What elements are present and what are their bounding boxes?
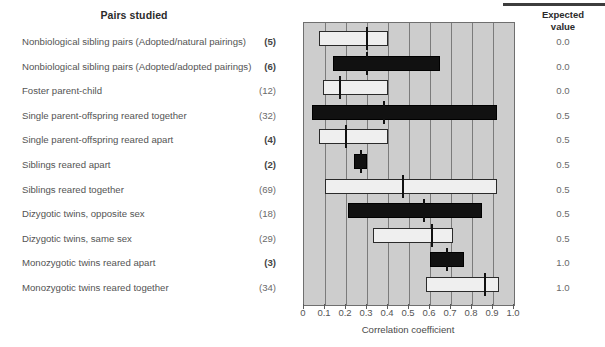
expected-value-cell: 0.5 bbox=[528, 128, 598, 153]
x-axis-tick-labels: 00.10.20.30.40.50.60.70.80.91.0 bbox=[303, 307, 513, 321]
pair-label-text: Single parent-offspring reared apart bbox=[22, 128, 173, 153]
range-bar bbox=[319, 31, 388, 46]
study-count: (34) bbox=[259, 276, 276, 301]
expected-value-cell: 0.0 bbox=[528, 30, 598, 55]
pair-label-row: Dizygotic twins, same sex(29) bbox=[0, 227, 290, 252]
pair-label-text: Dizygotic twins, opposite sex bbox=[22, 202, 145, 227]
pair-label-text: Siblings reared apart bbox=[22, 153, 111, 178]
top-divider-rule bbox=[503, 3, 605, 6]
study-count: (29) bbox=[259, 227, 276, 252]
median-marker bbox=[383, 101, 385, 124]
range-bar bbox=[323, 80, 388, 95]
study-count: (69) bbox=[259, 178, 276, 203]
expected-value-cell: 0.5 bbox=[528, 104, 598, 129]
median-marker bbox=[446, 248, 448, 271]
pairs-studied-header: Pairs studied bbox=[0, 9, 268, 21]
axis-tick-label: 1.0 bbox=[498, 307, 528, 318]
expected-value-cell: 0.5 bbox=[528, 178, 598, 203]
range-bar bbox=[373, 228, 453, 243]
pair-label-row: Siblings reared apart(2) bbox=[0, 153, 290, 178]
pair-label-text: Foster parent-child bbox=[22, 79, 102, 104]
median-marker bbox=[345, 125, 347, 148]
pair-label-text: Nonbiological sibling pairs (Adopted/nat… bbox=[22, 30, 246, 55]
pair-label-row: Nonbiological sibling pairs (Adopted/ado… bbox=[0, 55, 290, 80]
range-bar bbox=[333, 56, 440, 71]
range-bar bbox=[319, 129, 388, 144]
correlation-chart-figure: Pairs studied Expected value Nonbiologic… bbox=[0, 0, 605, 347]
study-count: (18) bbox=[259, 202, 276, 227]
pair-label-row: Dizygotic twins, opposite sex(18) bbox=[0, 202, 290, 227]
range-bar bbox=[325, 179, 497, 194]
pair-label-text: Nonbiological sibling pairs (Adopted/ado… bbox=[22, 55, 251, 80]
pair-label-row: Nonbiological sibling pairs (Adopted/nat… bbox=[0, 30, 290, 55]
expected-value-column: 0.00.00.00.50.50.50.50.50.51.01.0 bbox=[528, 30, 598, 301]
pair-label-row: Single parent-offspring reared together(… bbox=[0, 104, 290, 129]
range-bar bbox=[426, 277, 500, 292]
expected-value-cell: 0.5 bbox=[528, 153, 598, 178]
pair-label-text: Monozygotic twins reared apart bbox=[22, 251, 155, 276]
pair-label-text: Dizygotic twins, same sex bbox=[22, 227, 132, 252]
study-count: (6) bbox=[264, 55, 276, 80]
median-marker bbox=[339, 76, 341, 99]
range-bar bbox=[348, 203, 482, 218]
pair-label-text: Monozygotic twins reared together bbox=[22, 276, 169, 301]
median-marker bbox=[423, 199, 425, 222]
study-count: (32) bbox=[259, 104, 276, 129]
pair-label-row: Monozygotic twins reared apart(3) bbox=[0, 251, 290, 276]
median-marker bbox=[366, 27, 368, 50]
median-marker bbox=[484, 273, 486, 296]
plot-area bbox=[303, 22, 515, 306]
expected-value-cell: 0.5 bbox=[528, 227, 598, 252]
study-count: (5) bbox=[264, 30, 276, 55]
pair-label-text: Siblings reared together bbox=[22, 178, 124, 203]
pair-label-column: Nonbiological sibling pairs (Adopted/nat… bbox=[0, 30, 290, 301]
median-marker bbox=[431, 224, 433, 247]
expected-value-cell: 0.5 bbox=[528, 202, 598, 227]
median-marker bbox=[360, 150, 362, 173]
study-count: (2) bbox=[264, 153, 276, 178]
median-marker bbox=[366, 52, 368, 75]
study-count: (12) bbox=[259, 79, 276, 104]
expected-value-cell: 1.0 bbox=[528, 251, 598, 276]
study-count: (4) bbox=[264, 128, 276, 153]
expected-value-header-line1: Expected bbox=[528, 9, 598, 21]
pair-label-row: Monozygotic twins reared together(34) bbox=[0, 276, 290, 301]
x-axis-title: Correlation coefficient bbox=[303, 324, 513, 335]
range-bar bbox=[312, 105, 497, 120]
expected-value-cell: 0.0 bbox=[528, 55, 598, 80]
pair-label-text: Single parent-offspring reared together bbox=[22, 104, 187, 129]
pair-label-row: Siblings reared together(69) bbox=[0, 178, 290, 203]
expected-value-cell: 0.0 bbox=[528, 79, 598, 104]
pair-label-row: Single parent-offspring reared apart(4) bbox=[0, 128, 290, 153]
median-marker bbox=[402, 175, 404, 198]
range-bars-layer bbox=[304, 23, 514, 305]
study-count: (3) bbox=[264, 251, 276, 276]
pair-label-row: Foster parent-child(12) bbox=[0, 79, 290, 104]
expected-value-header: Expected value bbox=[528, 9, 598, 32]
expected-value-cell: 1.0 bbox=[528, 276, 598, 301]
